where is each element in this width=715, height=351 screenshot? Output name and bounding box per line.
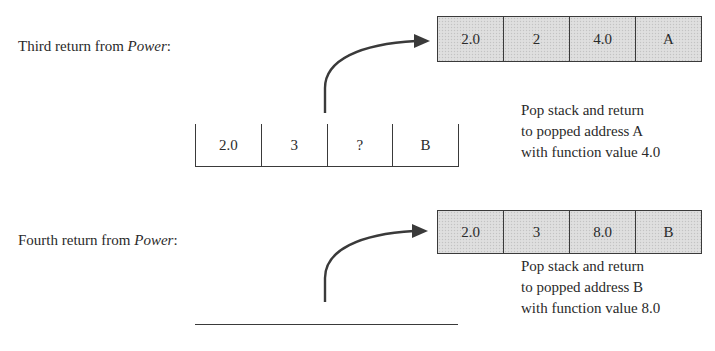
label-prefix: Fourth return from: [18, 232, 134, 248]
note-line: to popped address B: [521, 277, 660, 298]
popped-activation-record-1: 2.0 2 4.0 A: [437, 16, 702, 62]
frame-cell-return-address: B: [635, 211, 701, 253]
label-suffix: :: [167, 38, 171, 54]
stack-cell-exponent: 3: [261, 124, 327, 166]
label-prefix: Third return from: [18, 38, 128, 54]
remaining-stack-1: 2.0 3 ? B: [195, 124, 459, 167]
function-name: Power: [134, 232, 173, 248]
frame-cell-exponent: 3: [503, 211, 569, 253]
frame-cell-function-value: 8.0: [569, 211, 635, 253]
frame-cell-return-address: A: [635, 17, 701, 61]
curved-arrow-icon: [325, 224, 428, 302]
stack-cell-return-address: B: [392, 124, 458, 166]
frame-cell-exponent: 2: [503, 17, 569, 61]
popped-activation-record-2: 2.0 3 8.0 B: [437, 210, 702, 254]
note-line: with function value 8.0: [521, 298, 660, 319]
curved-arrow-icon: [325, 34, 430, 113]
note-line: to popped address A: [521, 121, 660, 142]
label-suffix: :: [173, 232, 177, 248]
frame-cell-base: 2.0: [438, 17, 503, 61]
pop-note-1: Pop stack and return to popped address A…: [521, 100, 660, 163]
frame-cell-function-value: 4.0: [569, 17, 635, 61]
note-line: Pop stack and return: [521, 256, 660, 277]
stack-cell-base: 2.0: [196, 124, 261, 166]
note-line: Pop stack and return: [521, 100, 660, 121]
empty-stack-baseline: [195, 324, 458, 325]
stack-cell-function-value: ?: [327, 124, 393, 166]
pop-note-2: Pop stack and return to popped address B…: [521, 256, 660, 319]
frame-cell-base: 2.0: [438, 211, 503, 253]
fourth-return-label: Fourth return from Power:: [18, 231, 178, 249]
note-line: with function value 4.0: [521, 142, 660, 163]
third-return-label: Third return from Power:: [18, 37, 171, 55]
function-name: Power: [128, 38, 167, 54]
